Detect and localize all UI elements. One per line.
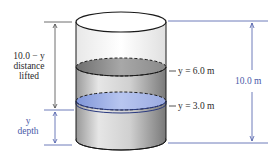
tank-height-label: 10.0 m [235,76,261,86]
tank-top-rim [76,12,166,32]
lifted-word: lifted [6,71,52,81]
distance-lifted-label: 10.0 − y distance lifted [6,51,52,81]
depth-dimension-lines [44,110,74,145]
tank-diagram: 10.0 − y distance lifted y depth y = 6.0… [0,0,276,163]
lower-level-label: y = 3.0 m [178,101,215,111]
distance-word: distance [6,61,52,71]
upper-level-label: y = 6.0 m [178,66,215,76]
depth-variable: y [10,116,46,126]
depth-word: depth [10,126,46,136]
distance-formula: 10.0 − y [6,51,52,61]
depth-label: y depth [10,116,46,136]
